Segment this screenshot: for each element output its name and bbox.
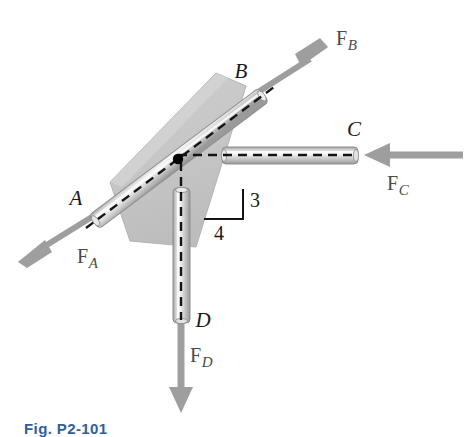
joint-label-C: C xyxy=(347,117,362,141)
svg-text:FC: FC xyxy=(387,172,410,198)
slope-run-label: 4 xyxy=(214,222,224,244)
force-label-FC: FC xyxy=(387,172,410,198)
joint-label-B: B xyxy=(235,59,248,83)
force-label-FB-sub: B xyxy=(348,37,357,53)
force-label-FD: FD xyxy=(190,344,213,370)
svg-text:FB: FB xyxy=(336,27,357,53)
slope-rise-label: 3 xyxy=(250,189,260,211)
joint-label-D: D xyxy=(194,308,210,332)
force-arrow-FC xyxy=(364,143,463,167)
force-label-FA: FA xyxy=(77,245,99,271)
force-label-FA-sub: A xyxy=(88,255,99,271)
force-label-FB-main: F xyxy=(336,27,347,49)
force-label-FD-sub: D xyxy=(201,354,213,370)
force-label-FD-main: F xyxy=(190,344,201,366)
origin-point xyxy=(173,154,183,164)
force-label-FB: FB xyxy=(336,27,357,53)
figure-container: A B C D 3 4 FA FB FC FD xyxy=(0,0,465,437)
force-label-FC-main: F xyxy=(387,172,398,194)
svg-text:FD: FD xyxy=(190,344,213,370)
joint-label-A: A xyxy=(68,186,83,210)
force-label-FC-sub: C xyxy=(399,182,410,198)
force-arrow-FB xyxy=(255,38,328,94)
force-diagram: A B C D 3 4 FA FB FC FD xyxy=(0,0,465,437)
force-label-FA-main: F xyxy=(77,245,88,267)
svg-text:FA: FA xyxy=(77,245,99,271)
